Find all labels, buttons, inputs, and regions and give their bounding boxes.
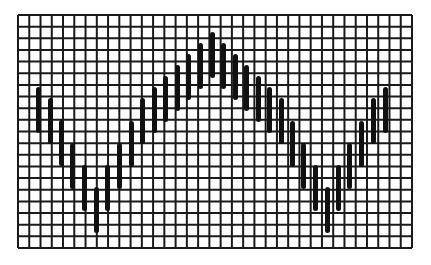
bar	[233, 54, 238, 100]
bar	[163, 76, 168, 122]
bar	[244, 65, 249, 111]
bar	[105, 165, 110, 211]
bar	[347, 143, 352, 189]
bar	[36, 87, 41, 133]
bar	[117, 143, 122, 189]
bar	[371, 98, 376, 144]
bar	[290, 121, 295, 167]
bar	[186, 54, 191, 100]
bar	[210, 32, 215, 78]
bar	[59, 120, 64, 166]
bar	[140, 98, 145, 144]
bar	[336, 165, 341, 211]
bar	[129, 121, 134, 167]
bar	[301, 143, 306, 189]
bar	[48, 98, 53, 144]
bar	[383, 87, 388, 133]
bar-zigzag	[0, 0, 431, 265]
bar	[313, 165, 318, 211]
bar	[256, 76, 261, 122]
bar	[94, 187, 99, 233]
bar	[82, 165, 87, 211]
bar	[70, 143, 75, 189]
bar	[267, 87, 272, 133]
bar	[359, 121, 364, 167]
bar	[175, 65, 180, 111]
bar	[279, 98, 284, 144]
bar	[198, 43, 203, 89]
bar	[152, 87, 157, 133]
bar	[221, 43, 226, 89]
bar	[325, 187, 330, 233]
